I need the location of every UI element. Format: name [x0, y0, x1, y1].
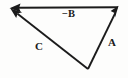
vector-label-a: A — [108, 37, 116, 48]
minus-sign-glyph: − — [62, 9, 68, 20]
vector-diagram-figure: −B A C — [0, 0, 128, 78]
vector-c — [10, 8, 88, 69]
vector-label-c: C — [35, 41, 43, 52]
vector-label-b-text: B — [68, 8, 75, 19]
vector-c-shaft — [18, 14, 89, 69]
vector-label-minus-b: −B — [62, 9, 75, 20]
